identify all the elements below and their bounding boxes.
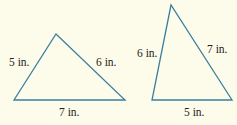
left-triangle-base-label: 7 in. (59, 107, 79, 119)
left-triangle-left-side-label: 5 in. (9, 57, 29, 69)
right-triangle-base-label: 5 in. (184, 107, 204, 119)
right-triangle-left-side-label: 6 in. (137, 48, 157, 60)
left-triangle-right-side-label: 6 in. (96, 57, 116, 69)
right-triangle-right-side-label: 7 in. (207, 44, 227, 56)
